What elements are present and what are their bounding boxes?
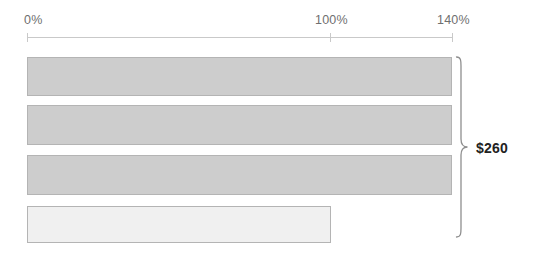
bar-chart: 0% 100% 140% $260 — [0, 0, 533, 255]
brace-icon — [455, 56, 469, 238]
axis-tick-100 — [330, 33, 331, 42]
axis-tick-label-140: 140% — [437, 13, 470, 27]
brace-label: $260 — [476, 140, 508, 156]
axis-tick-0 — [27, 33, 28, 42]
bar-2 — [27, 105, 452, 145]
axis-tick-140 — [452, 33, 453, 42]
bar-4 — [27, 206, 331, 243]
axis-tick-label-100: 100% — [315, 13, 348, 27]
bar-1 — [27, 57, 452, 96]
x-axis-line — [27, 37, 452, 38]
bar-3 — [27, 155, 452, 195]
axis-tick-label-0: 0% — [24, 13, 42, 27]
